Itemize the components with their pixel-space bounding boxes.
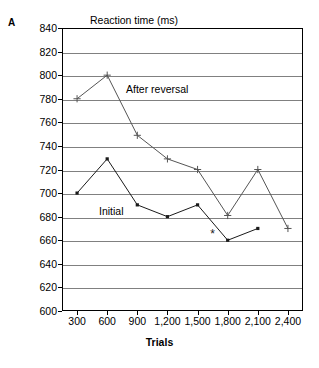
gridline <box>63 147 302 148</box>
gridline <box>63 194 302 195</box>
panel-label: A <box>8 17 15 28</box>
y-tick-label: 620 <box>39 281 57 293</box>
y-tick-label: 740 <box>39 140 57 152</box>
plot-area <box>62 28 303 311</box>
y-tick-mark <box>58 193 62 194</box>
gridline <box>63 171 302 172</box>
y-tick-mark <box>58 311 62 312</box>
x-tick-mark <box>77 311 78 315</box>
x-tick-label: 2,100 <box>245 315 271 327</box>
x-tick-label: 2,400 <box>275 315 301 327</box>
y-tick-mark <box>58 52 62 53</box>
x-tick-label: 1,500 <box>184 315 210 327</box>
x-tick-mark <box>288 311 289 315</box>
gridline <box>63 123 302 124</box>
y-tick-mark <box>58 75 62 76</box>
y-tick-label: 720 <box>39 164 57 176</box>
gridline <box>63 265 302 266</box>
y-tick-mark <box>58 170 62 171</box>
x-axis-title: Trials <box>0 336 319 348</box>
x-tick-label: 600 <box>98 315 116 327</box>
y-tick-label: 600 <box>39 305 57 317</box>
gridline <box>63 100 302 101</box>
x-tick-mark <box>258 311 259 315</box>
x-tick-label: 900 <box>129 315 147 327</box>
y-tick-mark <box>58 264 62 265</box>
y-tick-label: 840 <box>39 22 57 34</box>
y-tick-mark <box>58 287 62 288</box>
x-tick-mark <box>228 311 229 315</box>
y-tick-label: 820 <box>39 46 57 58</box>
y-tick-label: 680 <box>39 211 57 223</box>
y-tick-mark <box>58 146 62 147</box>
x-tick-mark <box>198 311 199 315</box>
gridline <box>63 53 302 54</box>
x-tick-mark <box>107 311 108 315</box>
y-axis-title: Reaction time (ms) <box>90 14 178 26</box>
x-tick-label: 300 <box>68 315 86 327</box>
y-tick-label: 780 <box>39 93 57 105</box>
x-tick-mark <box>137 311 138 315</box>
series-label-after-reversal: After reversal <box>125 83 189 95</box>
x-tick-label: 1,200 <box>154 315 180 327</box>
y-tick-label: 760 <box>39 116 57 128</box>
series-label-initial: Initial <box>98 205 125 217</box>
y-tick-mark <box>58 122 62 123</box>
y-tick-label: 700 <box>39 187 57 199</box>
figure-panel-a: A Reaction time (ms) * After reversal In… <box>0 0 319 368</box>
x-tick-label: 1,800 <box>215 315 241 327</box>
x-tick-mark <box>167 311 168 315</box>
y-tick-mark <box>58 240 62 241</box>
gridline <box>63 218 302 219</box>
y-tick-label: 660 <box>39 234 57 246</box>
gridline <box>63 241 302 242</box>
y-tick-label: 640 <box>39 258 57 270</box>
gridline <box>63 76 302 77</box>
y-tick-label: 800 <box>39 69 57 81</box>
gridline <box>63 288 302 289</box>
y-tick-mark <box>58 99 62 100</box>
y-tick-mark <box>58 28 62 29</box>
y-tick-mark <box>58 217 62 218</box>
